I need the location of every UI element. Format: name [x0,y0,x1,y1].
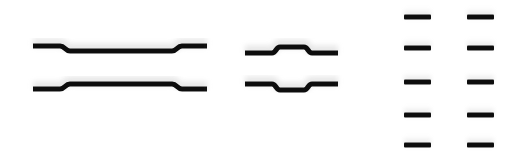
small-specimen-5 [404,76,431,85]
small-specimen-1 [404,11,431,20]
specimen-drawing [0,0,524,155]
small-specimen-8 [467,109,494,118]
small-specimen-7 [404,109,431,118]
medium-specimen-1 [245,44,338,55]
small-specimen-2 [467,11,494,20]
medium-specimens [245,44,338,90]
small-specimens [404,11,494,148]
large-specimen-2 [33,81,207,91]
small-specimen-9 [404,139,431,148]
medium-specimen-2 [245,81,338,90]
small-specimen-10 [467,139,494,148]
large-specimen-1 [33,43,207,51]
specimen-photo [0,0,524,155]
small-specimen-3 [404,42,431,51]
small-specimen-6 [467,76,494,85]
large-specimens [33,43,207,91]
small-specimen-4 [467,42,494,51]
